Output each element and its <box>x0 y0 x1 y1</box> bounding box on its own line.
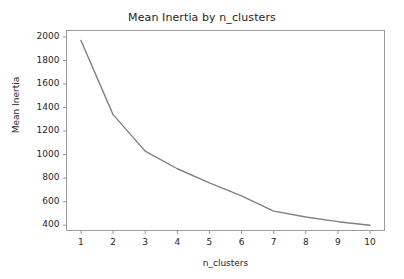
inertia-line-series <box>81 41 370 226</box>
x-tick-label: 3 <box>135 237 155 247</box>
x-tick-label: 2 <box>103 237 123 247</box>
x-tick-label: 9 <box>328 237 348 247</box>
y-tick-label: 800 <box>24 172 60 182</box>
y-tick-label: 1400 <box>24 102 60 112</box>
x-tick-label: 1 <box>71 237 91 247</box>
y-tick-label: 600 <box>24 196 60 206</box>
x-tick-label: 7 <box>264 237 284 247</box>
y-tick-label: 1200 <box>24 125 60 135</box>
y-tick-label: 2000 <box>24 31 60 41</box>
y-tick-label: 1600 <box>24 78 60 88</box>
chart-figure: Mean Inertia by n_clusters Mean Inertia … <box>0 0 404 279</box>
axes-frame <box>67 31 385 231</box>
x-tick-label: 5 <box>199 237 219 247</box>
x-tick-label: 10 <box>360 237 380 247</box>
plot-frame <box>67 31 385 231</box>
y-tick-label: 1000 <box>24 149 60 159</box>
x-tick-marks <box>81 231 370 235</box>
x-tick-label: 8 <box>296 237 316 247</box>
x-tick-label: 6 <box>232 237 252 247</box>
y-tick-marks <box>63 37 67 225</box>
y-tick-label: 400 <box>24 219 60 229</box>
y-tick-label: 1800 <box>24 55 60 65</box>
x-tick-label: 4 <box>167 237 187 247</box>
